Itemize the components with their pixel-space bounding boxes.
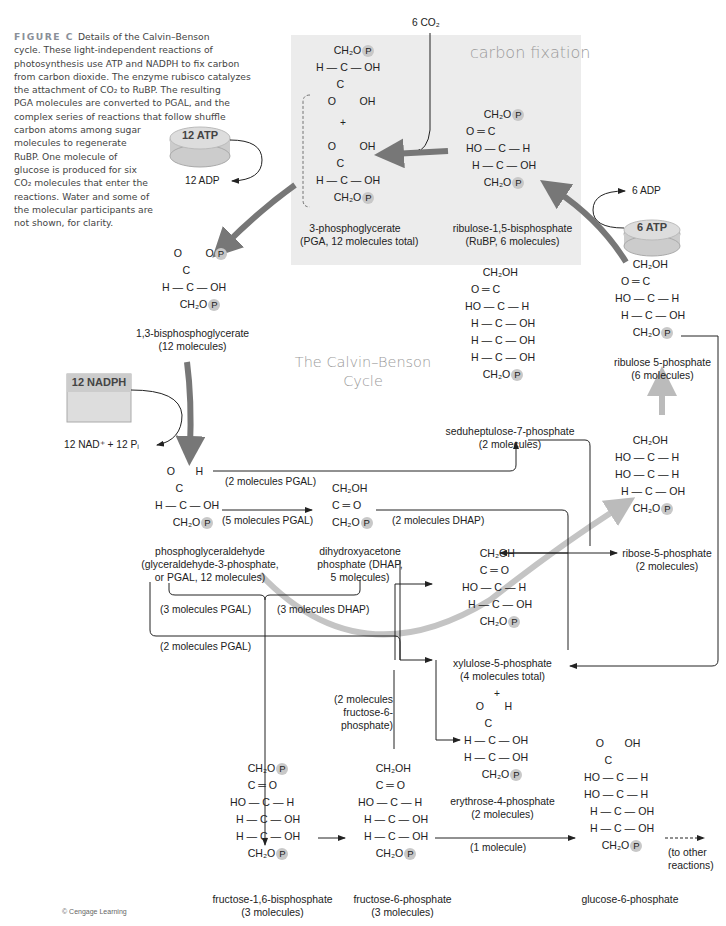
adp-12-label: 12 ADP	[185, 175, 220, 186]
s7p-label: seduheptulose-7-phosphate(2 molecules)	[440, 425, 580, 451]
flow-2-pgal-top: (2 molecules PGAL)	[225, 476, 316, 487]
flow-5-pgal: (5 molecules PGAL)	[222, 515, 313, 526]
f6p-label: fructose-6-phosphate(3 molecules)	[345, 893, 460, 919]
rubp-structure: CH₂OP O ═ C HO — C — H H — C — OH CH₂OP	[466, 106, 536, 191]
atp-12-label: 12 ATP	[170, 129, 230, 141]
adp-6-label: 6 ADP	[632, 185, 661, 196]
x5p-structure: CH₂OH C ═ O HO — C — H H — C — OH CH₂OP	[462, 545, 532, 630]
pga-top-structure: CH₂OP H — C — OH C O OH	[316, 42, 380, 110]
bpg-label: 1,3-bisphosphoglycerate(12 molecules)	[130, 327, 255, 353]
pgal-structure: O H C H — C — OH CH₂OP	[155, 463, 219, 531]
fbp-label: fructose-1,6-bisphosphate(3 molecules)	[210, 893, 335, 919]
flow-2-f6p: (2 moleculesfructose-6-phosphate)	[325, 693, 393, 732]
g6p-label: glucose-6-phosphate	[575, 893, 685, 906]
ru5p-label: ribulose 5-phosphate(6 molecules)	[605, 356, 720, 382]
copyright-credit: © Cengage Learning	[62, 908, 127, 915]
r5p-label: ribose-5-phosphate(2 molecules)	[612, 547, 722, 573]
flow-2-pgal-bottom: (2 molecules PGAL)	[160, 641, 251, 652]
fbp-structure: CH₂OP C ═ O HO — C — H H — C — OH H — C …	[230, 760, 300, 862]
dhap-label: dihydroxyacetonephosphate (DHAP,5 molecu…	[305, 545, 415, 584]
e4p-label: erythrose-4-phosphate(2 molecules)	[440, 795, 565, 821]
s7p-structure: CH₂OH O ═ C HO — C — H H — C — OH H — C …	[465, 264, 535, 383]
e4p-structure: O H C H — C — OH H — C — OH CH₂OP	[464, 698, 528, 783]
g6p-structure: O OH C HO — C — H HO — C — H H — C — OH …	[584, 735, 654, 854]
nadph-12-label: 12 NADPH	[67, 376, 131, 388]
flow-3-pgal: (3 molecules PGAL)	[160, 604, 251, 615]
pgal-label: phosphoglyceraldehyde(glyceraldehyde-3-p…	[130, 545, 290, 584]
bpg-structure: O OP C H — C — OH CH₂OP	[162, 245, 227, 313]
flow-1-molecule: (1 molecule)	[470, 842, 526, 853]
ru5p-structure: CH₂OH O ═ C HO — C — H H — C — OH CH₂OP	[615, 256, 685, 341]
dhap-structure: CH₂OH C ═ O CH₂OP	[332, 480, 373, 531]
pga-plus: +	[340, 117, 346, 128]
pga-label: 3-phosphoglycerate(PGA, 12 molecules tot…	[300, 222, 410, 248]
co2-input: 6 CO₂	[412, 17, 440, 28]
pga-bottom-structure: O OH C H — C — OH CH₂OP	[316, 138, 380, 206]
nad-pi-label: 12 NAD⁺ + 12 Pᵢ	[64, 439, 139, 450]
x5p-label: xylulose-5-phosphate(4 molecules total)	[440, 657, 565, 683]
f6p-structure: CH₂OH C ═ O HO — C — H H — C — OH H — C …	[358, 760, 428, 862]
flow-3-dhap: (3 molecules DHAP)	[277, 604, 369, 615]
atp-6-label: 6 ATP	[624, 221, 680, 233]
r5p-structure: CH₂OH HO — C — H HO — C — H H — C — OH C…	[615, 432, 685, 517]
rubp-label: ribulose-1,5-bisphosphate(RuBP, 6 molecu…	[445, 222, 580, 248]
flow-2-dhap: (2 molecules DHAP)	[392, 515, 484, 526]
flow-to-other: (to otherreactions)	[668, 846, 723, 872]
